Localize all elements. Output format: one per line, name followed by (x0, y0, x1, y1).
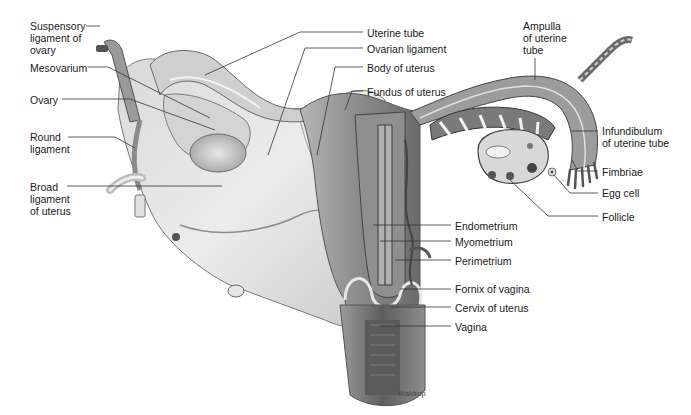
label-round-ligament: Round ligament (30, 131, 70, 155)
label-ovarian-ligament: Ovarian ligament (367, 43, 446, 55)
label-ovary: Ovary (30, 94, 58, 106)
anatomy-diagram: Suspensory ligament of ovary Mesovarium … (0, 0, 691, 415)
vessel-stub (228, 285, 244, 297)
artist-credit: Waldrop (398, 389, 426, 398)
vessel-stub (172, 233, 180, 241)
label-follicle: Follicle (602, 211, 635, 223)
label-broad-ligament-of-uterus: Broad ligament of uterus (30, 181, 71, 217)
label-ampulla-of-uterine-tube: Ampulla of uterine tube (523, 20, 567, 56)
label-mesovarium: Mesovarium (30, 62, 87, 74)
illustration (0, 0, 691, 415)
label-fimbriae: Fimbriae (602, 166, 643, 178)
label-body-of-uterus: Body of uterus (367, 62, 435, 74)
label-uterine-tube: Uterine tube (367, 27, 424, 39)
label-infundibulum-of-uterine-tube: Infundibulum of uterine tube (602, 125, 669, 149)
label-endometrium: Endometrium (455, 220, 517, 232)
label-fornix-of-vagina: Fornix of vagina (455, 283, 530, 295)
label-myometrium: Myometrium (455, 236, 513, 248)
label-egg-cell: Egg cell (602, 187, 639, 199)
label-suspensory-ligament-of-ovary: Suspensory ligament of ovary (30, 20, 85, 56)
label-perimetrium: Perimetrium (455, 255, 512, 267)
ovary-right-shape (430, 107, 555, 183)
label-cervix-of-uterus: Cervix of uterus (455, 302, 529, 314)
label-vagina: Vagina (455, 321, 487, 333)
label-fundus-of-uterus: Fundus of uterus (367, 86, 446, 98)
